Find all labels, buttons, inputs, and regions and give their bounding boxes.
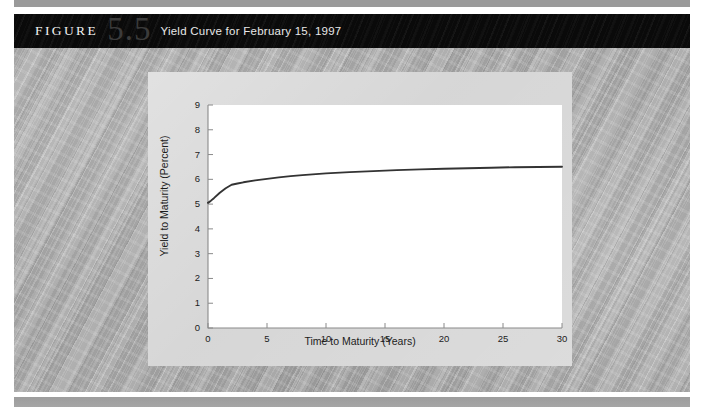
plot-background [208, 105, 562, 328]
figure-number: 5.5 [107, 14, 151, 46]
y-tick-label: 3 [186, 248, 200, 259]
y-tick-label: 9 [186, 99, 200, 110]
y-tick-label: 4 [186, 223, 200, 234]
figure-content-block: FIGURE 5.5 Yield Curve for February 15, … [14, 14, 690, 392]
y-tick-label: 1 [186, 297, 200, 308]
figure-header-bar: FIGURE 5.5 Yield Curve for February 15, … [14, 14, 690, 48]
figure-title: Yield Curve for February 15, 1997 [160, 25, 341, 37]
y-tick-label: 5 [186, 198, 200, 209]
y-tick-label: 2 [186, 272, 200, 283]
y-tick-label: 0 [186, 322, 200, 333]
figure-label: FIGURE [35, 23, 98, 39]
page-top-rule [14, 0, 690, 7]
y-tick-label: 6 [186, 173, 200, 184]
chart-panel: 051015202530 0123456789 Time to Maturity… [148, 72, 572, 366]
yield-curve-chart [148, 72, 572, 366]
y-tick-label: 8 [186, 124, 200, 135]
y-tick-label: 7 [186, 149, 200, 160]
page-bottom-rule [14, 397, 690, 407]
plot-area: 051015202530 0123456789 Time to Maturity… [148, 72, 572, 366]
x-axis-title: Time to Maturity (Years) [148, 335, 572, 347]
y-axis-title: Yield to Maturity (Percent) [158, 96, 170, 296]
